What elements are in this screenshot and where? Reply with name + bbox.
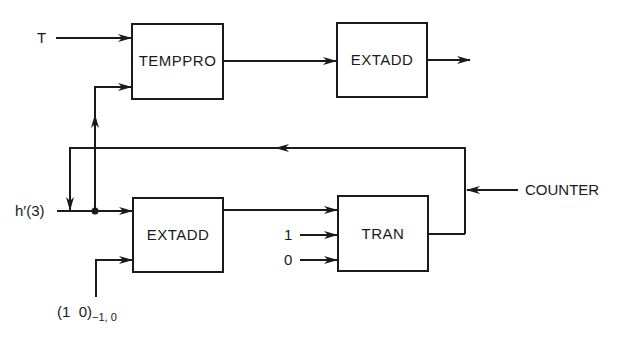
- h-label: h′(3): [15, 202, 45, 219]
- pair-main: (1 0): [57, 303, 92, 320]
- t-label: T: [37, 29, 46, 46]
- arrow-h-to-temppro: [95, 87, 131, 118]
- zero-label: 0: [284, 251, 292, 268]
- arrow-pair-to-extadd: [96, 260, 132, 297]
- tran-label: TRAN: [338, 225, 428, 242]
- extadd-top-label: EXTADD: [337, 51, 427, 68]
- diagram-canvas: [0, 0, 621, 343]
- pair-label: (1 0)−1, 0: [57, 303, 117, 323]
- extadd-bottom-label: EXTADD: [133, 226, 223, 243]
- junction-dot: [92, 208, 99, 215]
- temppro-label: TEMPPRO: [132, 52, 223, 69]
- counter-label: COUNTER: [525, 181, 599, 198]
- feedback-line: [70, 148, 465, 234]
- pair-sub: −1, 0: [92, 311, 117, 323]
- one-label: 1: [284, 226, 292, 243]
